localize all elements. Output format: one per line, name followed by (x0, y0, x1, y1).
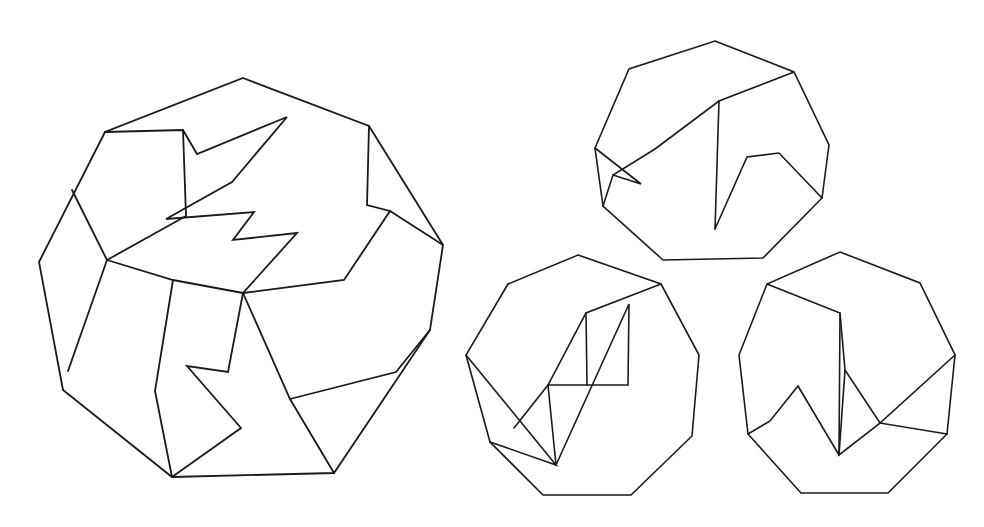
small-nonagon-bottom-left-cut-left-vertical (586, 313, 587, 385)
canvas-background (0, 0, 984, 527)
polygon-dissection-figure (0, 0, 984, 527)
